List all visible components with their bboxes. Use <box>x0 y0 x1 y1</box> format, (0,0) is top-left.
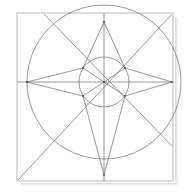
six-pointed-star-outline <box>27 22 172 175</box>
inner-vertex-upper-left-marker <box>82 67 84 69</box>
star-point-top-marker <box>103 21 105 23</box>
inner-vertex-upper-right-marker <box>124 67 126 69</box>
geometry-canvas <box>0 0 187 196</box>
diagonal-bl-tr <box>18 14 172 180</box>
center-point-marker <box>103 81 105 83</box>
geometric-figure <box>0 0 187 196</box>
star-point-right-marker <box>171 81 173 83</box>
diagonal-tl-br <box>44 14 172 146</box>
spoke-to-upper-right <box>104 68 125 82</box>
inner-vertex-lower-right-marker <box>124 95 126 97</box>
star-point-left-marker <box>26 81 28 83</box>
spoke-to-lower-right <box>104 82 125 96</box>
star-point-bottom-marker <box>103 174 105 176</box>
spoke-to-lower-left <box>83 82 104 96</box>
spoke-to-upper-left <box>83 68 104 82</box>
vertex-markers <box>26 21 173 176</box>
inner-vertex-lower-left-marker <box>82 95 84 97</box>
